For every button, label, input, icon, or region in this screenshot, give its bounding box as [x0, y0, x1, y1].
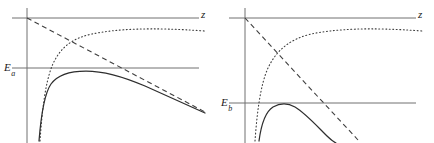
plot-panel-a: z Ea	[0, 0, 217, 143]
plot-canvas-a	[0, 0, 217, 143]
z-axis-label-a: z	[201, 9, 205, 20]
solid-curve-b	[259, 104, 336, 143]
energy-level-label-b: Eb	[221, 97, 232, 111]
dashed-line-a	[27, 18, 205, 112]
solid-curve-a	[39, 71, 205, 141]
plot-canvas-b	[217, 0, 434, 143]
two-panel-figure: z Ea z Eb	[0, 0, 434, 143]
z-axis-label-b: z	[418, 9, 422, 20]
energy-label-base-b: E	[221, 96, 228, 108]
energy-label-base-a: E	[4, 61, 11, 73]
energy-level-label-a: Ea	[4, 62, 15, 76]
dashed-line-b	[245, 18, 358, 140]
energy-label-sub-b: b	[228, 104, 232, 113]
dotted-curve-b	[255, 29, 422, 141]
energy-label-sub-a: a	[11, 69, 15, 78]
plot-panel-b: z Eb	[217, 0, 434, 143]
dotted-curve-a	[40, 29, 205, 141]
